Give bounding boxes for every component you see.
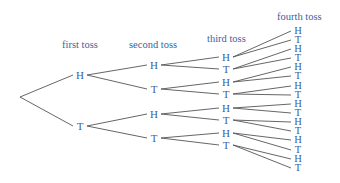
branch-edge bbox=[87, 65, 147, 75]
branch-edge bbox=[87, 114, 147, 126]
toss-3-node-heads: H bbox=[222, 77, 230, 88]
coin-toss-tree-diagram: first toss second toss third toss fourth… bbox=[0, 0, 340, 183]
toss-3-node-heads: H bbox=[222, 128, 230, 139]
branch-edge bbox=[161, 89, 219, 94]
toss-3-node-tails: T bbox=[223, 115, 230, 126]
branch-edge bbox=[233, 76, 291, 82]
branch-edge bbox=[20, 97, 73, 126]
toss-3-node-tails: T bbox=[223, 140, 230, 151]
branch-edge bbox=[161, 57, 219, 65]
header-second-toss: second toss bbox=[129, 40, 177, 51]
branch-edge bbox=[233, 67, 291, 82]
toss-2-node-tails: T bbox=[151, 84, 158, 95]
branch-edge bbox=[161, 108, 219, 114]
branch-edge bbox=[87, 75, 147, 89]
toss-4-node-tails: T bbox=[295, 163, 301, 174]
toss-2-node-tails: T bbox=[151, 133, 158, 144]
toss-2-node-heads: H bbox=[150, 109, 158, 120]
header-first-toss: first toss bbox=[62, 40, 98, 51]
toss-3-node-heads: H bbox=[222, 52, 230, 63]
branch-edge bbox=[20, 75, 73, 97]
branch-edge bbox=[233, 86, 291, 94]
toss-3-node-tails: T bbox=[223, 64, 230, 75]
branch-edge bbox=[87, 126, 147, 138]
branch-edge bbox=[161, 114, 219, 120]
branch-edge bbox=[161, 82, 219, 89]
branch-edge bbox=[161, 133, 219, 138]
toss-3-node-heads: H bbox=[222, 103, 230, 114]
toss-1-node-tails: T bbox=[77, 121, 84, 132]
branch-edge bbox=[233, 58, 291, 69]
toss-3-node-tails: T bbox=[223, 89, 230, 100]
branch-edge bbox=[161, 138, 219, 145]
branch-edge bbox=[233, 108, 291, 113]
header-third-toss: third toss bbox=[207, 34, 246, 45]
branch-edge bbox=[233, 133, 291, 140]
branch-edge bbox=[161, 65, 219, 69]
toss-2-node-heads: H bbox=[150, 60, 158, 71]
header-fourth-toss: fourth toss bbox=[277, 12, 322, 23]
branch-edge bbox=[233, 94, 291, 95]
branch-edge bbox=[233, 49, 291, 69]
toss-1-node-heads: H bbox=[76, 70, 84, 81]
tree-edges bbox=[0, 0, 340, 183]
branch-edge bbox=[233, 104, 291, 108]
